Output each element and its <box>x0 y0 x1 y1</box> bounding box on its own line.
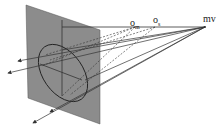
label-om: om <box>130 18 140 30</box>
label-mv: mv <box>203 14 216 24</box>
diagram-canvas <box>0 0 219 131</box>
label-os: os <box>153 15 160 27</box>
viewpoint <box>204 26 206 28</box>
